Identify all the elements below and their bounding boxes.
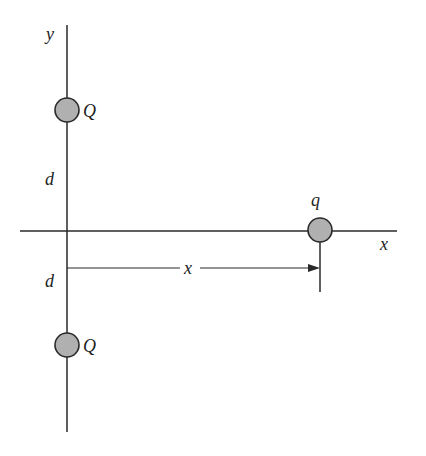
charge-q-label: q: [311, 190, 320, 210]
charge-diagram: y x Q Q q d d x: [0, 0, 426, 456]
x-dimension-arrowhead: [308, 264, 320, 272]
horizontal-distance-label: x: [183, 258, 192, 278]
x-axis-label: x: [379, 234, 388, 254]
charge-Q-top: [55, 98, 79, 122]
upper-distance-label: d: [45, 169, 55, 189]
charge-Q-bottom-label: Q: [83, 336, 96, 356]
y-axis-label: y: [44, 24, 54, 44]
charge-Q-top-label: Q: [83, 101, 96, 121]
charge-q: [308, 218, 332, 242]
lower-distance-label: d: [45, 271, 55, 291]
charge-Q-bottom: [55, 333, 79, 357]
